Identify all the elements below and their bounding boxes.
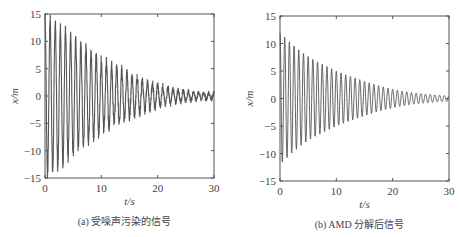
y-tick-label: −15 [24,172,42,184]
y-tick-label: 0 [271,93,277,105]
x-tick-label: 0 [277,185,283,197]
x-tick-label: 0 [42,182,48,194]
signal-path [280,33,449,163]
x-tick-label: 10 [96,182,108,194]
panel-b-axes-frame [280,16,449,181]
y-tick-label: 10 [265,38,277,50]
y-tick-label: −10 [24,145,42,157]
y-tick-label: 5 [271,65,277,77]
panel-a-signal-line [45,14,214,178]
signal-path [45,14,214,178]
panel-a-chart: 151050−5−10−150102030 t/s x/m (a) 受噪声污染的… [8,8,220,228]
y-tick-label: 0 [36,90,42,102]
panel-a-y-axis-label: x/m [8,88,20,105]
y-tick-label: 15 [30,8,42,20]
panel-a-caption: (a) 受噪声污染的信号 [78,215,172,228]
panel-b-y-axis-label: x/m [243,91,255,108]
y-tick-label: 5 [36,63,42,75]
figure: 151050−5−10−150102030 t/s x/m (a) 受噪声污染的… [0,0,459,237]
y-tick-label: −5 [29,117,41,129]
y-tick-label: −15 [259,175,277,187]
x-tick-label: 20 [387,185,399,197]
panel-b-signal-line [280,33,449,163]
y-tick-label: 10 [30,35,42,47]
y-tick-label: −10 [259,148,277,160]
x-tick-label: 30 [209,182,221,194]
panel-b-chart: 151050−5−10−150102030 t/s x/m (b) AMD 分解… [243,10,455,231]
x-tick-label: 20 [152,182,164,194]
panel-b-caption: (b) AMD 分解后信号 [315,218,404,231]
x-tick-label: 30 [444,185,456,197]
x-tick-label: 10 [331,185,343,197]
panel-a-x-axis-label: t/s [124,195,134,207]
y-tick-label: −5 [264,120,276,132]
panel-b-x-axis-label: t/s [359,198,369,210]
y-tick-label: 15 [265,10,277,22]
